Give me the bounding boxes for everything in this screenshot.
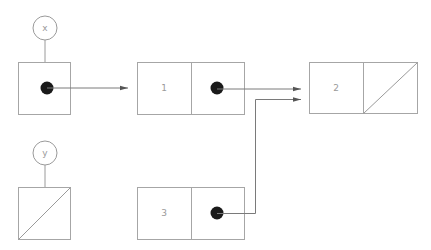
node-1-value: 1 [161, 83, 167, 93]
variable-y-label: y [42, 148, 48, 158]
node-2: 2 [310, 63, 418, 114]
box-pointer-diagram: x y 1 2 3 [0, 0, 431, 250]
variable-x-label: x [42, 23, 48, 33]
variable-x: x [19, 16, 71, 115]
variable-y: y [19, 141, 71, 240]
node-3-value: 3 [161, 208, 167, 218]
node-2-value: 2 [333, 83, 339, 93]
node-1-pointer-dot [211, 82, 224, 95]
